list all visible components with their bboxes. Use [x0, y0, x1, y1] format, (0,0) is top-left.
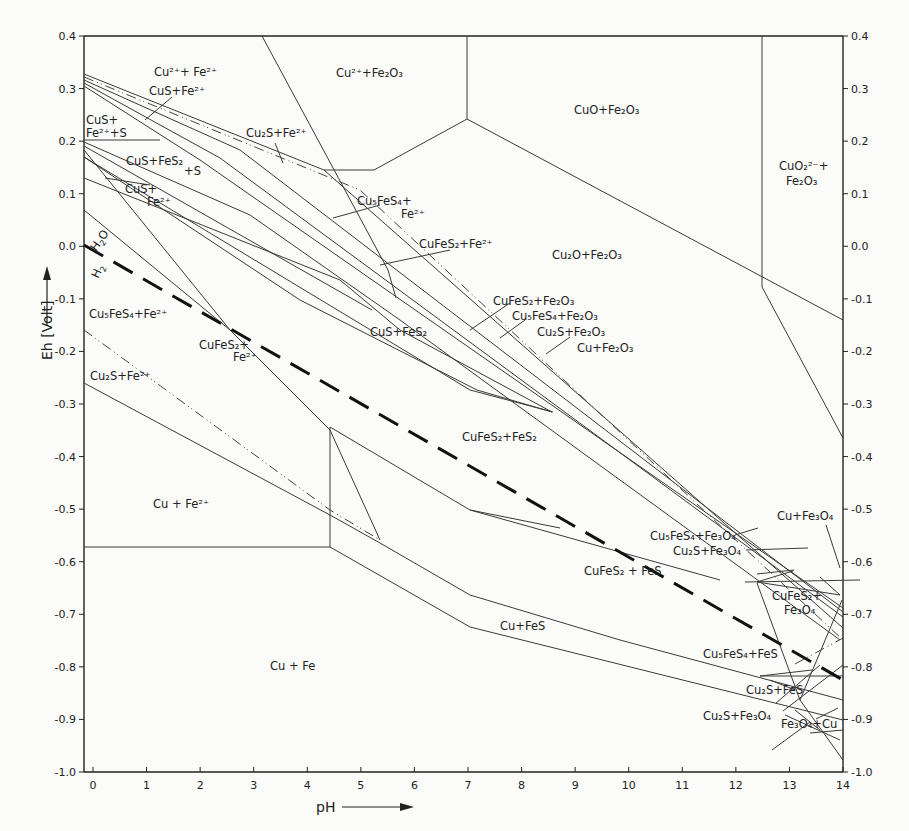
x-tick-label: 4 — [304, 779, 311, 792]
field-label: Cu₅FeS₄+Fe₃O₄ — [650, 529, 736, 543]
field-label: +S — [184, 164, 201, 178]
y-tick-label-right: -0.4 — [851, 451, 872, 464]
field-label: Cu₂S+Fe₃O₄ — [673, 544, 742, 558]
y-tick-label-left: 0.3 — [59, 83, 77, 96]
y-tick-label-left: -0.5 — [55, 503, 76, 516]
field-label: CuS+Fe²⁺ — [149, 84, 205, 98]
x-tick-label: 2 — [197, 779, 204, 792]
field-label: Fe₂O₃ — [786, 174, 818, 188]
y-tick-label-left: -0.4 — [55, 451, 76, 464]
field-label: Cu²⁺+ Fe²⁺ — [154, 65, 217, 79]
field-label: CuS+ — [86, 113, 118, 127]
field-label: CuFeS₂+FeS₂ — [462, 430, 537, 444]
field-labels: Cu²⁺+ Fe²⁺ CuS+Fe²⁺ CuS+ Fe²⁺+S CuS+FeS₂… — [86, 65, 837, 731]
y-tick-label-right: 0.0 — [851, 240, 869, 253]
y-tick-label-right: -0.8 — [851, 661, 872, 674]
field-label: Cu+Fe₃O₄ — [777, 509, 834, 523]
y-tick-label-right: -0.9 — [851, 713, 872, 726]
plot-frame — [84, 36, 843, 772]
field-label: Cu₂S+Fe₃O₄ — [703, 709, 772, 723]
field-label: CuFeS₂ + FeS — [584, 564, 662, 578]
y-tick-label-left: -0.6 — [55, 556, 76, 569]
x-tick-label: 1 — [143, 779, 150, 792]
field-label: CuS+FeS₂ — [370, 325, 427, 339]
field-label: Cu₂S+Fe₂O₃ — [537, 325, 606, 339]
field-label: CuS+FeS₂ — [126, 154, 183, 168]
field-label: Fe²⁺+S — [86, 126, 127, 140]
y-tick-label-right: 0.1 — [851, 188, 869, 201]
y-tick-label-right: 0.4 — [851, 30, 869, 43]
x-tick-label: 11 — [675, 779, 689, 792]
y-tick-label-left: 0.1 — [59, 188, 77, 201]
y-tick-label-right: -0.5 — [851, 503, 872, 516]
field-label: Fe²⁺ — [401, 207, 425, 221]
h2-label: H2 — [88, 262, 108, 281]
field-label: Cu+Fe₂O₃ — [577, 341, 634, 355]
water-stability-line — [84, 245, 843, 680]
x-ticks: 01234567891011121314 — [90, 767, 851, 792]
y-tick-label-left: -0.1 — [55, 293, 76, 306]
x-tick-label: 6 — [411, 779, 418, 792]
y-tick-label-right: -0.2 — [851, 345, 872, 358]
field-label: Cu₅FeS₄+ — [357, 194, 412, 208]
field-label: CuFeS₂+Fe₂O₃ — [493, 294, 575, 308]
field-label: CuFeS₂+Fe²⁺ — [419, 237, 493, 251]
field-label: Cu + Fe — [270, 659, 315, 673]
field-label: Cu²⁺+Fe₂O₃ — [336, 66, 403, 80]
field-label: CuO₂²⁻+ — [779, 159, 828, 173]
y-tick-label-right: -0.3 — [851, 398, 872, 411]
y-tick-label-left: -0.8 — [55, 661, 76, 674]
field-label: Fe₃O₄ — [784, 603, 816, 617]
field-label: Cu₂S+Fe²⁺ — [246, 126, 307, 140]
eh-ph-diagram: 0.40.30.20.10.0-0.1-0.2-0.3-0.4-0.5-0.6-… — [0, 0, 909, 831]
field-label: Cu+FeS — [500, 619, 545, 633]
x-tick-label: 5 — [357, 779, 364, 792]
x-tick-label: 12 — [729, 779, 743, 792]
y-tick-label-left: -0.9 — [55, 713, 76, 726]
x-tick-label: 3 — [250, 779, 257, 792]
x-tick-label: 14 — [836, 779, 850, 792]
y-tick-label-right: -1.0 — [851, 766, 872, 779]
field-label: Cu + Fe²⁺ — [153, 497, 209, 511]
field-label: CuO+Fe₂O₃ — [574, 103, 640, 117]
x-axis-label: pH — [316, 799, 335, 815]
field-label: Fe²⁺ — [233, 350, 257, 364]
x-tick-label: 10 — [622, 779, 636, 792]
field-label: Cu₂O+Fe₂O₃ — [552, 248, 622, 262]
y-tick-label-right: 0.3 — [851, 83, 869, 96]
y-tick-label-left: 0.2 — [59, 135, 77, 148]
field-label: Cu₂S+FeS — [746, 683, 803, 697]
y-tick-label-left: -0.3 — [55, 398, 76, 411]
y-tick-label-right: -0.1 — [851, 293, 872, 306]
field-label: Cu₂S+Fe²⁺ — [90, 369, 151, 383]
field-label: CuFeS₂+ — [772, 589, 822, 603]
y-tick-label-left: -0.7 — [55, 608, 76, 621]
y-tick-label-left: 0.0 — [59, 240, 77, 253]
y-tick-label-left: -1.0 — [55, 766, 76, 779]
x-tick-label: 9 — [572, 779, 579, 792]
y-tick-label-left: -0.2 — [55, 345, 76, 358]
y-tick-label-left: 0.4 — [59, 30, 77, 43]
x-tick-label: 0 — [90, 779, 97, 792]
field-label: Cu₅FeS₄+Fe²⁺ — [89, 307, 167, 321]
x-tick-label: 7 — [465, 779, 472, 792]
field-label: CuS+ — [125, 182, 157, 196]
x-tick-label: 8 — [518, 779, 525, 792]
x-axis-arrow — [342, 803, 414, 811]
field-label: Fe²⁺ — [147, 195, 171, 209]
field-label: Cu₅FeS₄+Fe₂O₃ — [512, 309, 598, 323]
x-tick-label: 13 — [782, 779, 796, 792]
field-label: Cu₅FeS₄+FeS — [703, 647, 778, 661]
y-tick-label-right: -0.6 — [851, 556, 872, 569]
y-tick-label-right: 0.2 — [851, 135, 869, 148]
field-label: Fe₃O₄+Cu — [781, 717, 837, 731]
y-ticks: 0.40.30.20.10.0-0.1-0.2-0.3-0.4-0.5-0.6-… — [55, 30, 873, 779]
y-tick-label-right: -0.7 — [851, 608, 872, 621]
